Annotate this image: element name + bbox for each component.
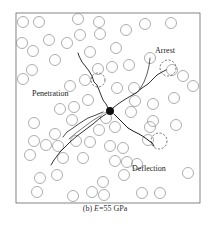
figure-caption: (b) E=55 GPa	[0, 204, 210, 213]
label-penetration: Penetration	[32, 89, 68, 98]
label-deflection: Deflection	[132, 164, 166, 173]
crack-origin	[106, 107, 114, 115]
crack-propagation-diagram: Arrest Penetration Deflection	[0, 0, 210, 227]
label-arrest: Arrest	[155, 46, 176, 55]
caption-value: =55 GPa	[99, 204, 127, 213]
caption-prefix: (b)	[83, 204, 94, 213]
